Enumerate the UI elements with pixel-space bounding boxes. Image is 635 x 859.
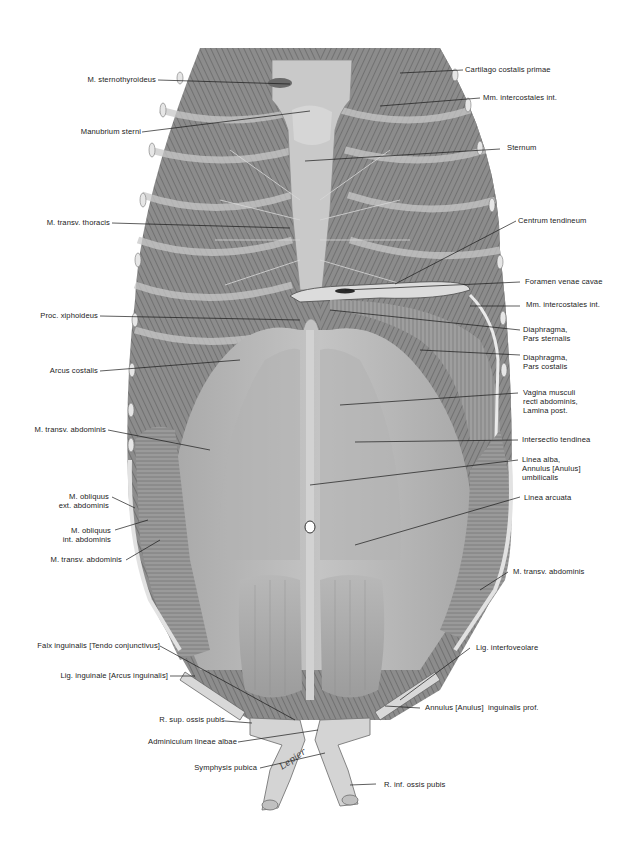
label-linea-arcuata: Linea arcuata: [524, 493, 571, 502]
label-diaphragma-sternalis: Diaphragma, Pars sternalis: [523, 325, 570, 343]
label-m-sternothyroideus: M. sternothyroideus: [87, 75, 156, 84]
pubic-bones: [250, 718, 370, 810]
label-manubrium-sterni: Manubrium sterni: [81, 127, 141, 136]
label-m-transv-thoracis: M. transv. thoracis: [47, 218, 110, 227]
label-m-obliquus-int: M. obliquus int. abdominis: [63, 526, 111, 544]
label-m-obliquus-ext: M. obliquus ext. abdominis: [59, 492, 109, 510]
label-arcus-costalis: Arcus costalis: [50, 366, 98, 375]
rectus-sheath: [168, 328, 474, 701]
umbilicus: [305, 521, 315, 533]
label-intersectio-tendinea: Intersectio tendinea: [522, 435, 590, 444]
label-m-transv-abdominis-2: M. transv. abdominis: [51, 555, 123, 564]
label-r-inf-ossis-pubis: R. inf. ossis pubis: [384, 780, 445, 789]
label-foramen-venae-cavae: Foramen venae cavae: [525, 277, 602, 286]
label-centrum-tendineum: Centrum tendineum: [518, 216, 586, 225]
label-adminiculum: Adminiculum lineae albae: [148, 737, 237, 746]
label-mm-intercostales-2: Mm. intercostales int.: [526, 300, 600, 309]
label-cartilago-costalis: Cartilago costalis primae: [465, 65, 551, 74]
label-diaphragma-costalis: Diaphragma, Pars costalis: [523, 353, 568, 371]
label-symphysis-pubica: Symphysis pubica: [194, 763, 257, 772]
label-falx-inguinalis: Falx inguinalis [Tendo conjunctivus]: [37, 641, 160, 650]
label-linea-alba: Linea alba, Annulus [Anulus] umbilicalis: [522, 455, 581, 483]
label-m-transv-abdominis-3: M. transv. abdominis: [513, 567, 585, 576]
label-vagina-musculi: Vagina musculi recti abdominis, Lamina p…: [523, 388, 578, 416]
label-lig-inguinale: Lig. inguinale [Arcus inguinalis]: [60, 671, 168, 680]
label-lig-interfoveolare: Lig. interfoveolare: [476, 643, 538, 652]
label-annulus-inguinalis: Annulus [Anulus] inguinalis prof.: [425, 703, 539, 712]
label-mm-intercostales-1: Mm. intercostales int.: [483, 93, 557, 102]
label-proc-xiphoideus: Proc. xiphoideus: [40, 311, 98, 320]
label-r-sup-ossis-pubis: R. sup. ossis pubis: [159, 715, 225, 724]
label-sternum: Sternum: [507, 143, 536, 152]
label-m-transv-abdominis-1: M. transv. abdominis: [35, 425, 107, 434]
